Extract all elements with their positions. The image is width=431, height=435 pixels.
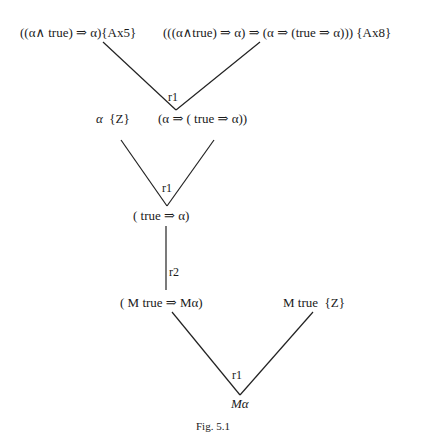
annotation-ax5: {Ax5} [101, 25, 136, 40]
rule-r1-mid: r1 [162, 181, 172, 195]
edge-ax8 [176, 42, 260, 110]
edge-m-true [240, 312, 313, 395]
edge-m-impl [172, 312, 240, 395]
node-m-alpha: Mα [231, 396, 249, 412]
formula-ax5: ((α∧ true) ⇒ α) [20, 25, 101, 40]
node-true-impl: ( true ⇒ α) [133, 208, 189, 224]
node-m-impl: ( M true ⇒ Mα) [120, 295, 203, 311]
rule-r1-bottom: r1 [232, 368, 242, 382]
node-alpha-impl: (α ⇒ ( true ⇒ α)) [158, 111, 247, 127]
rule-r2: r2 [169, 265, 179, 279]
formula-ax8: (((α∧true) ⇒ α) ⇒ (α ⇒ (true ⇒ α))) [163, 25, 353, 40]
node-ax5: ((α∧ true) ⇒ α){Ax5} [20, 25, 136, 41]
proof-tree-edges [0, 0, 431, 435]
edge-ax5 [103, 42, 176, 110]
edge-alpha-impl [167, 140, 214, 206]
formula-alpha: α [96, 111, 103, 126]
edge-alpha-z [121, 140, 167, 206]
annotation-alpha-z: {Z} [109, 111, 129, 126]
node-m-true-z: M true {Z} [283, 295, 345, 311]
node-alpha-z: α {Z} [96, 111, 130, 127]
formula-m-true: M true [283, 295, 318, 310]
annotation-ax8: {Ax8} [356, 25, 391, 40]
annotation-m-true-z: {Z} [325, 295, 345, 310]
rule-r1-top: r1 [168, 90, 178, 104]
node-ax8: (((α∧true) ⇒ α) ⇒ (α ⇒ (true ⇒ α))) {Ax8… [163, 25, 391, 41]
figure-caption: Fig. 5.1 [196, 420, 230, 432]
